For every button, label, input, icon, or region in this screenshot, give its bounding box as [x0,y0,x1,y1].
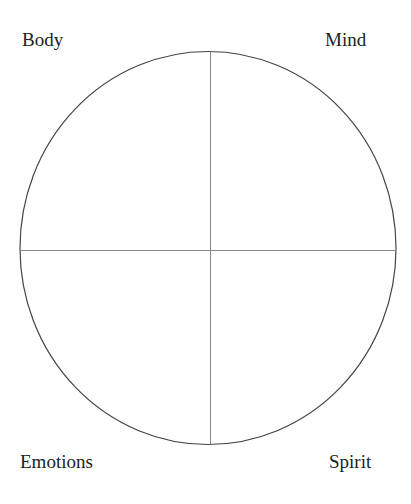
label-spirit: Spirit [329,452,371,471]
quadrant-circle-diagram [0,0,411,504]
label-mind: Mind [325,30,366,49]
label-body: Body [22,30,63,49]
outer-circle [20,52,396,445]
label-emotions: Emotions [20,452,93,471]
